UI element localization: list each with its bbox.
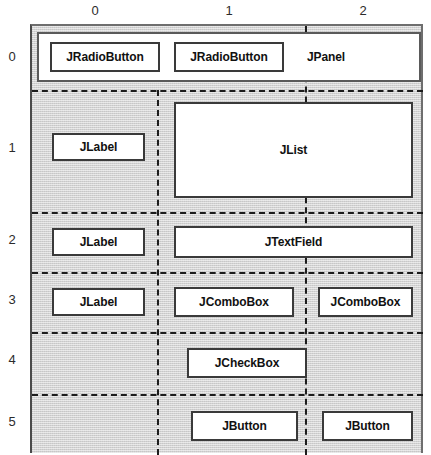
- component-jlabel-1-label: JLabel: [80, 140, 117, 154]
- row-header-5: 5: [0, 415, 24, 429]
- component-jcombobox-1-label: JComboBox: [199, 295, 269, 309]
- component-jcombobox-2[interactable]: JComboBox: [318, 287, 413, 317]
- component-jradiobutton-1-label: JRadioButton: [66, 50, 143, 64]
- component-jcombobox-1[interactable]: JComboBox: [174, 287, 294, 317]
- row-separator-4-5: [32, 394, 423, 396]
- column-header-1: 1: [209, 2, 249, 20]
- component-jradiobutton-2[interactable]: JRadioButton: [174, 42, 284, 72]
- row-separator-0-1: [32, 90, 423, 92]
- component-jtextfield-label: JTextField: [265, 235, 322, 249]
- component-jbutton-2[interactable]: JButton: [322, 411, 413, 441]
- component-jlabel-3-label: JLabel: [80, 295, 117, 309]
- row-header-2: 2: [0, 233, 24, 247]
- component-jcheckbox-label: JCheckBox: [215, 356, 279, 370]
- row-separator-3-4: [32, 332, 423, 334]
- component-jlabel-2[interactable]: JLabel: [52, 228, 145, 256]
- row-separator-2-3: [32, 272, 423, 274]
- component-jbutton-1[interactable]: JButton: [191, 411, 298, 441]
- component-jbutton-1-label: JButton: [222, 419, 267, 433]
- component-jbutton-2-label: JButton: [345, 419, 390, 433]
- component-jtextfield[interactable]: JTextField: [174, 226, 413, 258]
- row-header-0: 0: [0, 50, 24, 64]
- layout-grid: JPanel JRadioButton JRadioButton JLabel …: [30, 24, 423, 453]
- column-header-0: 0: [75, 2, 115, 20]
- component-jpanel-label: JPanel: [307, 50, 345, 64]
- row-header-3: 3: [0, 293, 24, 307]
- component-jlabel-2-label: JLabel: [80, 235, 117, 249]
- component-jlist-label: JList: [280, 143, 308, 157]
- column-header-2: 2: [343, 2, 383, 20]
- component-jradiobutton-1[interactable]: JRadioButton: [50, 42, 160, 72]
- component-jlabel-1[interactable]: JLabel: [52, 133, 145, 161]
- component-jlabel-3[interactable]: JLabel: [52, 288, 145, 316]
- component-jcombobox-2-label: JComboBox: [331, 295, 401, 309]
- row-header-1: 1: [0, 141, 24, 155]
- component-jcheckbox[interactable]: JCheckBox: [187, 348, 307, 378]
- row-header-4: 4: [0, 353, 24, 367]
- component-jlist[interactable]: JList: [174, 102, 413, 198]
- row-separator-1-2: [32, 212, 423, 214]
- component-jradiobutton-2-label: JRadioButton: [190, 50, 267, 64]
